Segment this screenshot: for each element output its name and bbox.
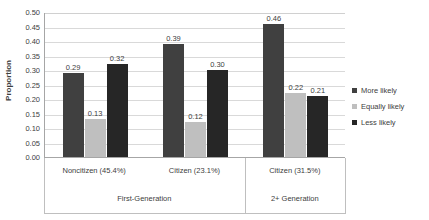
bar-value-label: 0.39 xyxy=(159,34,188,43)
category-axis: Noncitizen (45.4%)Citizen (23.1%)Citizen… xyxy=(44,158,345,214)
bar xyxy=(163,44,184,157)
y-axis-tick-label: 0.30 xyxy=(14,67,40,75)
bar-value-label: 0.21 xyxy=(303,86,332,95)
category-axis-right-border xyxy=(345,158,346,214)
legend-item[interactable]: Less likely xyxy=(352,114,428,130)
y-axis-tick-label: 0.35 xyxy=(14,53,40,61)
category-axis-bottom-border xyxy=(44,213,345,214)
y-axis-tick-label: 0.45 xyxy=(14,24,40,32)
bar-chart: Proportion 0.500.450.400.350.300.250.200… xyxy=(0,0,429,220)
y-axis-tick-label: 0.25 xyxy=(14,82,40,90)
y-axis-tick-label: 0.50 xyxy=(14,9,40,17)
legend-label: Equally likely xyxy=(361,102,404,111)
bar-value-label: 0.13 xyxy=(81,109,110,118)
y-axis-title-text: Proportion xyxy=(4,60,13,101)
bar-value-label: 0.46 xyxy=(259,14,288,23)
y-axis-tick-label: 0.15 xyxy=(14,111,40,119)
legend-label: More likely xyxy=(361,86,397,95)
y-axis-tick-label: 0.05 xyxy=(14,140,40,148)
y-axis-tick-label: 0.40 xyxy=(14,38,40,46)
category-label: Noncitizen (45.4%) xyxy=(44,166,144,176)
bar xyxy=(185,122,206,157)
bar-value-label: 0.29 xyxy=(59,63,88,72)
bar-value-label: 0.12 xyxy=(181,112,210,121)
category-label: Citizen (23.1%) xyxy=(144,166,244,176)
y-axis-tick-label: 0.10 xyxy=(14,125,40,133)
bar xyxy=(285,93,306,157)
y-axis-tick-label: 0.00 xyxy=(14,154,40,162)
legend-item[interactable]: More likely xyxy=(352,82,428,98)
bar xyxy=(207,70,228,157)
y-axis-tick-labels: 0.500.450.400.350.300.250.200.150.100.05… xyxy=(14,9,40,159)
legend-swatch-icon xyxy=(352,88,357,93)
group-label: First-Generation xyxy=(44,194,245,204)
category-axis-left-border xyxy=(44,158,45,214)
legend: More likelyEqually likelyLess likely xyxy=(352,82,428,130)
group-label: 2+ Generation xyxy=(245,194,345,204)
legend-item[interactable]: Equally likely xyxy=(352,98,428,114)
legend-label: Less likely xyxy=(361,118,396,127)
category-label: Citizen (31.5%) xyxy=(245,166,345,176)
legend-swatch-icon xyxy=(352,104,357,109)
y-axis-tick-label: 0.20 xyxy=(14,96,40,104)
bar-value-label: 0.32 xyxy=(103,54,132,63)
bars-layer: 0.290.130.320.390.120.300.460.220.21 xyxy=(45,13,345,157)
bar xyxy=(85,119,106,157)
bar xyxy=(307,96,328,157)
legend-swatch-icon xyxy=(352,120,357,125)
bar-value-label: 0.30 xyxy=(203,60,232,69)
bar xyxy=(107,64,128,157)
plot-area: 0.290.130.320.390.120.300.460.220.21 xyxy=(44,13,345,158)
group-separator xyxy=(245,158,246,214)
